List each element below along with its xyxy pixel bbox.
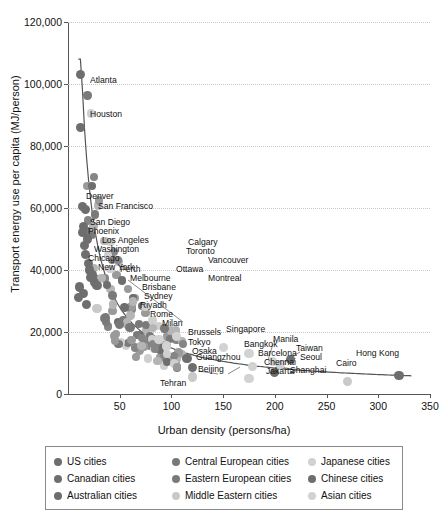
legend-item[interactable]: Middle Eastern cities — [172, 490, 308, 501]
data-point — [92, 281, 101, 290]
point-label: San Francisco — [98, 202, 153, 211]
legend-marker-icon — [308, 458, 316, 466]
point-label: Cairo — [336, 359, 357, 368]
x-tick-mark — [327, 394, 328, 398]
data-point — [115, 320, 124, 329]
point-label: Jakarta — [266, 367, 294, 376]
point-label: Singapore — [226, 325, 265, 334]
point-label: Denver — [86, 192, 114, 201]
legend-marker-icon — [54, 475, 62, 483]
point-label: Brussels — [188, 328, 221, 337]
legend-marker-icon — [54, 492, 62, 500]
x-tick-label: 150 — [203, 400, 243, 412]
legend-item[interactable]: US cities — [54, 456, 172, 467]
legend-label: Asian cities — [321, 490, 372, 501]
data-point — [125, 323, 134, 332]
data-point-cluster — [124, 285, 132, 293]
data-point-cluster — [90, 173, 98, 181]
legend-item[interactable]: Canadian cities — [54, 473, 172, 484]
x-tick-mark — [275, 394, 276, 398]
data-point-cluster — [135, 320, 143, 328]
data-point-cluster — [88, 182, 96, 190]
data-point-cluster — [138, 334, 146, 342]
data-point — [244, 374, 253, 383]
data-point — [76, 123, 85, 132]
x-tick-label: 200 — [255, 400, 295, 412]
data-point-cluster — [109, 300, 117, 308]
data-point — [101, 313, 110, 322]
data-point — [188, 372, 197, 381]
y-tick-mark — [64, 394, 68, 395]
gridline — [68, 84, 430, 85]
legend-marker-icon — [172, 492, 180, 500]
data-point — [182, 354, 191, 363]
legend-item[interactable]: Chinese cities — [308, 473, 408, 484]
gridline — [68, 146, 430, 147]
x-tick-mark — [223, 394, 224, 398]
legend-item[interactable]: Japanese cities — [308, 456, 408, 467]
data-point-cluster — [118, 276, 126, 284]
legend-marker-icon — [54, 458, 62, 466]
x-tick-label: 350 — [410, 400, 448, 412]
data-point-cluster — [137, 342, 145, 350]
data-point-cluster — [151, 344, 159, 352]
data-point-cluster — [179, 340, 187, 348]
point-label: Beijing — [198, 365, 224, 374]
point-label: Shanghai — [290, 366, 326, 375]
data-point — [244, 349, 253, 358]
point-label: Riyadh — [140, 301, 167, 310]
point-label: Vancouver — [208, 256, 248, 265]
legend-label: Eastern European cities — [185, 473, 291, 484]
point-label: Atlanta — [90, 76, 117, 85]
data-point — [162, 341, 171, 350]
legend-marker-icon — [308, 475, 316, 483]
legend-item[interactable]: Eastern European cities — [172, 473, 308, 484]
data-point — [248, 362, 257, 371]
data-point — [82, 300, 91, 309]
legend-label: Australian cities — [67, 490, 137, 501]
data-point — [188, 363, 197, 372]
data-point-cluster — [120, 303, 128, 311]
legend-marker-icon — [172, 475, 180, 483]
point-label: Montreal — [208, 274, 241, 283]
legend-item[interactable]: Australian cities — [54, 490, 172, 501]
data-point — [343, 377, 352, 386]
data-point-cluster — [112, 330, 120, 338]
x-axis-title: Urban density (persons/ha) — [0, 424, 448, 436]
point-label: Manila — [273, 335, 298, 344]
data-point-cluster — [153, 357, 161, 365]
legend-item[interactable]: Asian cities — [308, 490, 408, 501]
point-label: Seoul — [300, 353, 322, 362]
y-tick-label: 0 — [0, 389, 62, 399]
x-tick-label: 250 — [307, 400, 347, 412]
legend-label: Central European cities — [185, 456, 289, 467]
point-label: Guangzhou — [196, 353, 240, 362]
legend-grid: US citiesCentral European citiesJapanese… — [54, 453, 394, 504]
gridline — [68, 22, 430, 23]
point-label: Hong Kong — [356, 349, 399, 358]
data-point — [394, 371, 403, 380]
x-tick-mark — [120, 394, 121, 398]
legend-label: US cities — [67, 456, 106, 467]
legend-item[interactable]: Central European cities — [172, 456, 308, 467]
y-axis-title: Transport energy use per capita (MJ/pers… — [9, 19, 21, 349]
x-tick-label: 300 — [358, 400, 398, 412]
x-tick-mark — [430, 394, 431, 398]
data-point-cluster — [83, 91, 91, 99]
legend-label: Middle Eastern cities — [185, 490, 277, 501]
x-tick-mark — [378, 394, 379, 398]
point-label: Tehran — [160, 379, 186, 388]
data-point — [92, 304, 101, 313]
chart-root: 020,00040,00060,00080,000100,000120,000 … — [0, 0, 448, 524]
point-label: Ottawa — [176, 265, 203, 274]
data-point — [74, 293, 83, 302]
data-point-cluster — [163, 350, 171, 358]
x-tick-mark — [171, 394, 172, 398]
data-point-cluster — [108, 291, 116, 299]
legend-label: Canadian cities — [67, 473, 135, 484]
data-point — [76, 70, 85, 79]
data-point-cluster — [129, 297, 137, 305]
data-point-cluster — [149, 324, 157, 332]
data-point-cluster — [127, 336, 135, 344]
legend-label: Japanese cities — [321, 456, 390, 467]
